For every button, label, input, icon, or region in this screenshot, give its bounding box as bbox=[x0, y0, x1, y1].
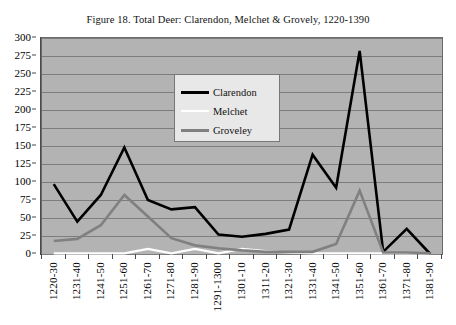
x-tick-label: 1251-60 bbox=[117, 262, 129, 300]
y-tick-label: 0 bbox=[26, 247, 32, 259]
x-tick-mark bbox=[182, 254, 183, 259]
x-tick-label: 1341-50 bbox=[329, 262, 341, 300]
x-tick-mark bbox=[417, 254, 418, 259]
x-tick-label: 1291-1300 bbox=[211, 262, 223, 311]
x-tick-mark bbox=[206, 254, 207, 259]
x-tick-label: 1301-10 bbox=[235, 262, 247, 300]
y-tick-mark bbox=[32, 55, 36, 56]
legend-swatch-icon bbox=[181, 129, 209, 132]
y-tick-mark bbox=[32, 37, 36, 38]
x-tick-label: 1241-50 bbox=[94, 262, 106, 300]
y-tick-label: 300 bbox=[15, 31, 32, 43]
x-tick-mark bbox=[65, 254, 66, 259]
y-tick-mark bbox=[32, 73, 36, 74]
y-tick-label: 100 bbox=[15, 175, 32, 187]
y-tick-label: 25 bbox=[20, 229, 31, 241]
x-tick-mark bbox=[88, 254, 89, 259]
chart-legend: ClarendonMelchetGroveley bbox=[174, 74, 280, 142]
x-tick-label: 1371-80 bbox=[400, 262, 412, 300]
x-tick-mark bbox=[347, 254, 348, 259]
x-tick-mark bbox=[441, 254, 442, 259]
x-tick-label: 1351-60 bbox=[353, 262, 365, 300]
y-tick-label: 150 bbox=[15, 139, 32, 151]
x-tick-label: 1231-40 bbox=[70, 262, 82, 300]
x-tick-label: 1321-30 bbox=[282, 262, 294, 300]
x-tick-mark bbox=[323, 254, 324, 259]
y-tick-label: 75 bbox=[20, 193, 31, 205]
series-layer bbox=[42, 38, 442, 254]
y-tick-mark bbox=[32, 199, 36, 200]
x-tick-mark bbox=[159, 254, 160, 259]
y-tick-label: 50 bbox=[20, 211, 31, 223]
x-tick-label: 1311-20 bbox=[259, 262, 271, 300]
x-tick-label: 1261-70 bbox=[141, 262, 153, 300]
y-tick-label: 125 bbox=[15, 157, 32, 169]
x-tick-mark bbox=[135, 254, 136, 259]
y-tick-mark bbox=[32, 217, 36, 218]
y-tick-label: 175 bbox=[15, 121, 32, 133]
x-tick-label: 1361-70 bbox=[376, 262, 388, 300]
x-tick-mark bbox=[276, 254, 277, 259]
y-tick-mark bbox=[32, 109, 36, 110]
legend-swatch-icon bbox=[181, 110, 209, 112]
y-tick-label: 200 bbox=[15, 103, 32, 115]
x-tick-mark bbox=[394, 254, 395, 259]
x-tick-mark bbox=[41, 254, 42, 259]
legend-item-groveley[interactable]: Groveley bbox=[175, 119, 279, 141]
y-tick-mark bbox=[32, 235, 36, 236]
plot-area bbox=[41, 37, 443, 255]
x-tick-label: 1271-80 bbox=[164, 262, 176, 300]
y-tick-mark bbox=[32, 163, 36, 164]
y-axis: 3002752502252001751501251007550250 bbox=[0, 37, 36, 253]
y-tick-label: 275 bbox=[15, 49, 32, 61]
y-tick-mark bbox=[32, 145, 36, 146]
figure-container: Figure 18. Total Deer: Clarendon, Melche… bbox=[0, 0, 456, 325]
x-tick-label: 1220-30 bbox=[47, 262, 59, 300]
series-line-groveley bbox=[54, 191, 430, 254]
legend-label: Groveley bbox=[213, 125, 252, 136]
y-tick-mark bbox=[32, 91, 36, 92]
y-tick-mark bbox=[32, 127, 36, 128]
legend-label: Melchet bbox=[213, 106, 247, 117]
y-tick-label: 250 bbox=[15, 67, 32, 79]
chart-title: Figure 18. Total Deer: Clarendon, Melche… bbox=[0, 14, 456, 25]
y-tick-mark bbox=[32, 181, 36, 182]
x-tick-label: 1381-90 bbox=[423, 262, 435, 300]
legend-label: Clarendon bbox=[213, 87, 257, 98]
legend-swatch-icon bbox=[181, 91, 209, 94]
x-tick-mark bbox=[370, 254, 371, 259]
y-tick-label: 225 bbox=[15, 85, 32, 97]
x-axis: 1220-301231-401241-501251-601261-701271-… bbox=[41, 254, 441, 325]
y-tick-mark bbox=[32, 253, 36, 254]
x-tick-mark bbox=[253, 254, 254, 259]
x-tick-mark bbox=[112, 254, 113, 259]
x-tick-mark bbox=[229, 254, 230, 259]
x-tick-label: 1331-40 bbox=[306, 262, 318, 300]
x-tick-label: 1281-90 bbox=[188, 262, 200, 300]
x-tick-mark bbox=[300, 254, 301, 259]
